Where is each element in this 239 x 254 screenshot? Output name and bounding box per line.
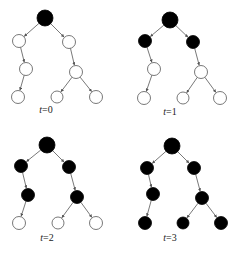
edge-arrow [23,172,27,188]
edge-arrow [147,200,151,216]
node-filled [39,137,55,153]
node-filled [71,191,84,204]
node-filled [139,35,152,48]
node-empty [13,35,26,48]
tree-diagram: t=0 t=1 t=2 t=3 [0,0,239,254]
edge-arrow [176,26,188,38]
edge-arrow [51,24,64,37]
time-step-label: t=0 [39,104,52,115]
edge-arrow [80,77,92,91]
node-filled [141,162,154,175]
edge-arrow [187,203,198,218]
node-empty [20,63,33,76]
edge-arrow [147,47,152,62]
node-empty [13,217,26,230]
edge-arrow [70,48,74,65]
panel-t1: t=1 [138,12,227,117]
edge-arrow [20,75,24,90]
edge-arrow [71,173,76,190]
node-filled [22,189,35,202]
edge-arrow [53,151,64,162]
time-step-label: t=2 [40,232,53,243]
node-filled [63,161,76,174]
node-empty [148,63,161,76]
edge-arrow [205,77,216,92]
edge-arrow [150,25,164,36]
edge-arrow [62,202,73,218]
edge-arrow [178,152,189,163]
node-empty [12,91,25,104]
edge-arrow [196,174,201,191]
node-filled [177,217,189,229]
edge-arrow [206,203,217,217]
edge-arrow [146,75,152,91]
node-empty [177,92,189,104]
node-empty [90,91,103,104]
node-filled [139,217,152,230]
node-empty [63,36,76,49]
time-step-label: t=1 [163,106,176,117]
edge-arrow [26,150,40,162]
node-empty [90,217,103,230]
node-empty [70,66,83,79]
node-filled [162,12,178,28]
panel-t3: t=3 [139,138,228,243]
node-empty [52,217,64,229]
edge-arrow [21,47,25,62]
edge-arrow [195,48,200,65]
edge-arrow [148,174,151,187]
node-empty [214,92,227,105]
edge-arrow [152,151,166,163]
node-filled [215,217,228,230]
node-filled [15,160,28,173]
edge-arrow [187,77,198,92]
time-step-label: t=3 [163,232,176,243]
node-empty [195,66,208,79]
node-empty [138,92,151,105]
node-filled [37,10,53,26]
edge-arrow [24,23,39,36]
edge-arrow [81,202,92,217]
node-filled [187,36,200,49]
node-filled [196,192,209,205]
panel-t2: t=2 [13,137,103,243]
node-empty [51,91,63,103]
edge-arrow [21,201,26,216]
node-filled [188,162,201,175]
node-filled [147,188,160,201]
panel-t0: t=0 [12,10,103,115]
node-filled [164,138,180,154]
edge-arrow [61,77,72,92]
